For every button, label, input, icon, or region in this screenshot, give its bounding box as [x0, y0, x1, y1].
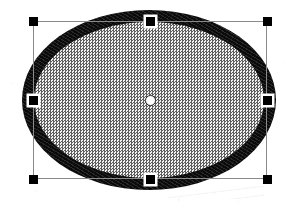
resize-handle-bottom-center[interactable]	[146, 175, 155, 184]
resize-handle-top-left[interactable]	[29, 17, 38, 26]
scan-smudge-artifact	[168, 186, 264, 199]
drawing-canvas[interactable]	[0, 0, 298, 208]
resize-handle-middle-left[interactable]	[29, 96, 38, 105]
resize-handle-top-right[interactable]	[263, 17, 272, 26]
resize-handle-middle-right[interactable]	[263, 96, 272, 105]
resize-handle-top-center[interactable]	[146, 17, 155, 26]
resize-handle-bottom-left[interactable]	[29, 175, 38, 184]
resize-handle-bottom-right[interactable]	[263, 175, 272, 184]
shape-center-marker[interactable]	[145, 95, 156, 106]
